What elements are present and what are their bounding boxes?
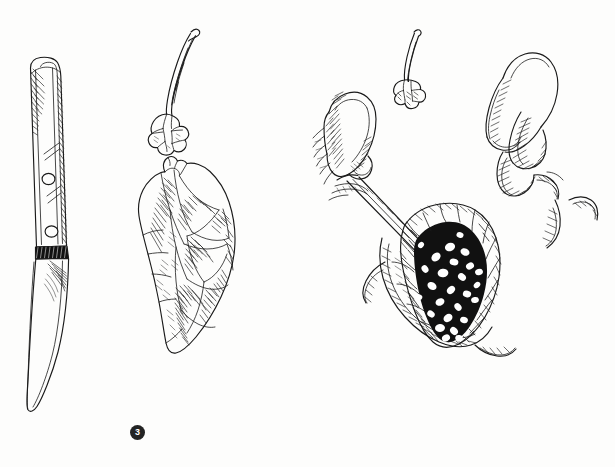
illustration-plate: 3	[0, 0, 615, 467]
leaf-outline	[138, 157, 235, 354]
garlic-sprout-small	[394, 30, 426, 109]
leaf-shading-bottom-right	[200, 270, 227, 323]
knife-bolster	[36, 246, 69, 259]
handle-rivet-upper	[42, 173, 55, 184]
stuffed-leaf	[400, 203, 501, 347]
handle-rivet-lower	[45, 226, 58, 237]
cabbage-leaf-illustration	[118, 140, 298, 390]
knife-blade	[27, 259, 69, 412]
leaf-shading-lower	[175, 285, 206, 345]
leaf-folds	[143, 170, 233, 343]
handle-left-shading	[31, 69, 45, 135]
panel-step-3: 3	[0, 0, 307, 467]
right-hand-fingers	[486, 53, 598, 248]
step-number-badge-3: 3	[130, 425, 145, 440]
hands-stuffing-leaf-illustration	[307, 0, 615, 420]
left-hand-holding-knife	[313, 92, 376, 200]
blade-heel-shading	[48, 261, 67, 291]
knife-handle	[31, 57, 67, 247]
leaf-shading-mid-fold	[185, 237, 213, 275]
handle-grain-marks	[44, 143, 61, 203]
leaf-shading-upper-left	[151, 178, 177, 252]
panel-step-4: 4	[307, 0, 615, 467]
garlic-shoot	[166, 29, 199, 115]
leaf-shading-center	[178, 196, 215, 230]
